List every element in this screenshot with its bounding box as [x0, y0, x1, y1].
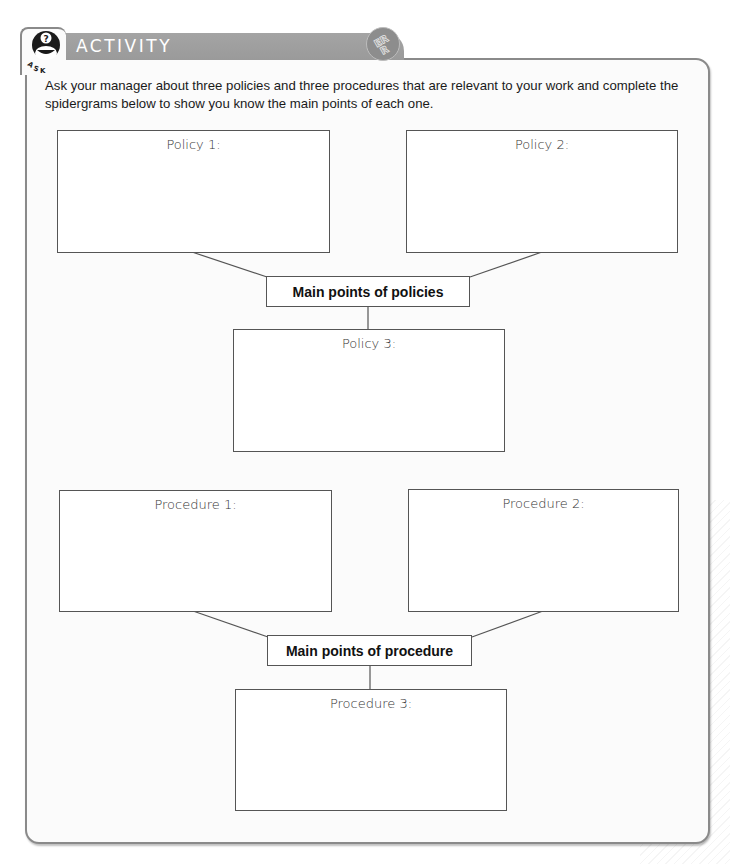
procedure-1-label: Procedure 1:: [60, 497, 331, 512]
procedure-2-box[interactable]: Procedure 2:: [408, 489, 679, 612]
svg-text:S: S: [32, 64, 39, 73]
policies-hub-label: Main points of policies: [293, 284, 444, 300]
procedures-hub: Main points of procedure: [267, 635, 472, 666]
err-badge-icon: ER R: [365, 26, 401, 62]
svg-text:K: K: [40, 67, 46, 74]
policies-hub: Main points of policies: [266, 276, 470, 307]
policy-1-label: Policy 1:: [58, 137, 329, 152]
procedure-2-label: Procedure 2:: [409, 496, 678, 511]
policy-3-label: Policy 3:: [234, 336, 504, 351]
activity-title: ACTIVITY: [76, 36, 172, 56]
svg-text:?: ?: [43, 34, 48, 44]
policy-2-box[interactable]: Policy 2:: [406, 130, 678, 253]
policy-2-label: Policy 2:: [407, 137, 677, 152]
procedures-hub-label: Main points of procedure: [286, 643, 453, 659]
procedure-1-box[interactable]: Procedure 1:: [59, 490, 332, 612]
activity-instructions: Ask your manager about three policies an…: [45, 77, 700, 113]
activity-page: ? A S K ACTIVITY ER R Ask your manager a…: [0, 0, 730, 864]
policy-3-box[interactable]: Policy 3:: [233, 329, 505, 452]
procedure-3-label: Procedure 3:: [236, 696, 506, 711]
policy-1-box[interactable]: Policy 1:: [57, 130, 330, 253]
question-person-icon: ? A S K: [24, 28, 68, 74]
procedure-3-box[interactable]: Procedure 3:: [235, 689, 507, 811]
